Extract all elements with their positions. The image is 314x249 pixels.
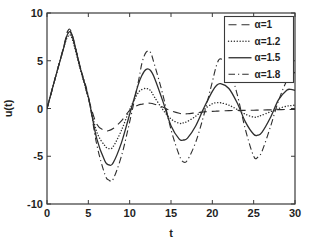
y-tick-label: 5 bbox=[37, 55, 43, 67]
legend-label: α=1 bbox=[255, 19, 273, 30]
y-tick-label: 10 bbox=[31, 7, 43, 19]
y-tick-label: -10 bbox=[27, 198, 43, 210]
x-tick-label: 5 bbox=[85, 207, 91, 219]
x-tick-label: 25 bbox=[248, 207, 260, 219]
legend: α=1α=1.2α=1.5α=1.8 bbox=[225, 17, 294, 83]
y-axis-label: u(t) bbox=[2, 99, 14, 117]
x-tick-label: 10 bbox=[124, 207, 136, 219]
plot-canvas: 051015202530-10-50510 α=1α=1.2α=1.5α=1.8… bbox=[0, 0, 314, 249]
x-tick-label: 30 bbox=[289, 207, 301, 219]
chart-figure: 051015202530-10-50510 α=1α=1.2α=1.5α=1.8… bbox=[0, 0, 314, 249]
x-tick-label: 20 bbox=[206, 207, 218, 219]
legend-label: α=1.8 bbox=[255, 69, 281, 80]
x-axis-label: t bbox=[169, 227, 173, 239]
y-tick-label: 0 bbox=[37, 103, 43, 115]
legend-label: α=1.2 bbox=[255, 36, 281, 47]
x-tick-label: 15 bbox=[165, 207, 177, 219]
legend-label: α=1.5 bbox=[255, 52, 281, 63]
x-tick-label: 0 bbox=[44, 207, 50, 219]
y-tick-label: -5 bbox=[33, 150, 43, 162]
